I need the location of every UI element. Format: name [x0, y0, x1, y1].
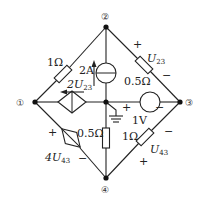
node-3-label: ③ [185, 98, 193, 108]
node-1-label: ① [16, 98, 24, 108]
vs-minus: − [155, 101, 164, 114]
vs-1v-value: 1V [132, 114, 148, 127]
node-center-dot [103, 99, 108, 104]
wire-1-2a [35, 80, 57, 102]
u43-label: U43 [150, 143, 168, 157]
ccs-diamond [58, 91, 86, 113]
node-3-dot [177, 99, 182, 104]
node-4-dot [103, 175, 108, 180]
r24-value: 0.5Ω [77, 127, 104, 140]
vcvs-minus: − [78, 152, 87, 165]
vcvs-plus: + [48, 126, 57, 139]
u23-label: U23 [147, 52, 165, 66]
ccs-value: 2U23 [66, 78, 92, 92]
node-1-dot [32, 99, 37, 104]
node-4-label: ④ [101, 185, 109, 195]
r23-value: 0.5Ω [124, 75, 151, 88]
cs-2a-value: 2A [79, 64, 95, 77]
r12-value: 1Ω [47, 56, 63, 69]
r34-value: 1Ω [122, 130, 138, 143]
u43-plus: + [139, 155, 148, 168]
vs-plus: + [122, 101, 131, 114]
u23-plus: + [133, 38, 142, 51]
vcvs-value: 4U43 [44, 151, 70, 165]
node-2-label: ② [101, 12, 109, 22]
wire-1-4a [35, 102, 62, 129]
circuit-diagram: ① ② ③ ④ 1Ω 2A 2U23 0.5Ω + U23 − + − 1V 0… [0, 0, 207, 211]
ground-icon [106, 102, 123, 122]
ccs-arrow-head-icon [60, 90, 67, 95]
u43-minus: − [164, 125, 173, 138]
node-2-dot [103, 24, 108, 29]
wire-3-4b [106, 143, 139, 178]
wire-1-2b [69, 27, 106, 68]
u23-minus: − [162, 69, 171, 82]
